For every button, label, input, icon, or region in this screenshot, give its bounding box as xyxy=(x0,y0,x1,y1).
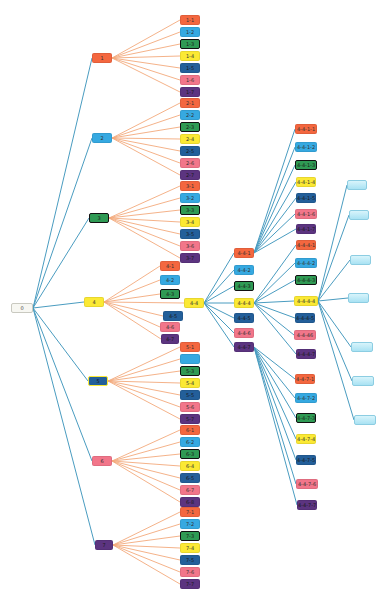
tree-node-4-4-7-6[interactable]: 4-4-7-6 xyxy=(296,479,318,489)
tree-node-4-4-7-7[interactable]: 4-4-7-7 xyxy=(297,500,317,510)
tree-node-2-6[interactable]: 2-6 xyxy=(180,158,200,168)
tree-node-4-4-7-4[interactable]: 4-4-7-4 xyxy=(296,434,316,444)
tree-node-4-4-4-3[interactable]: 4-4-4-3 xyxy=(295,275,317,285)
edge-4-4-4-to-4-4-4-4 xyxy=(254,301,294,303)
tree-node-4-4-4-2[interactable]: 4-4-4-2 xyxy=(295,258,317,268)
tree-node-3-7[interactable]: 3-7 xyxy=(180,253,200,263)
tree-node-1-5[interactable]: 1-5 xyxy=(180,63,200,73)
tree-node-7-6[interactable]: 7-6 xyxy=(180,567,200,577)
tree-node-4-4-5[interactable]: 4-4-5 xyxy=(234,313,254,323)
tree-node-4-4-6[interactable]: 4-4-6 xyxy=(234,328,254,338)
tree-node-2-2[interactable]: 2-2 xyxy=(180,110,200,120)
tree-node-6-8[interactable]: 6-8 xyxy=(180,497,200,507)
tree-node-2[interactable]: 2 xyxy=(92,133,112,143)
tree-node-6[interactable]: 6 xyxy=(92,456,112,466)
tree-node-4-4-4-4-5[interactable] xyxy=(351,342,373,352)
tree-node-4-3[interactable]: 4-3 xyxy=(160,289,180,299)
tree-node-1-1[interactable]: 1-1 xyxy=(180,15,200,25)
tree-node-4-4-4-4-3[interactable] xyxy=(350,255,371,265)
tree-node-7-4[interactable]: 7-4 xyxy=(180,543,200,553)
tree-node-7-2[interactable]: 7-2 xyxy=(180,519,200,529)
tree-node-1-3[interactable]: 1-3 xyxy=(180,39,200,49)
tree-node-6-1[interactable]: 6-1 xyxy=(180,425,200,435)
tree-node-1-4[interactable]: 1-4 xyxy=(180,51,200,61)
tree-node-5-1[interactable]: 5-1 xyxy=(180,342,200,352)
tree-node-1-6[interactable]: 1-6 xyxy=(180,75,200,85)
tree-node-4-2[interactable]: 4-2 xyxy=(160,275,180,285)
tree-node-3[interactable]: 3 xyxy=(89,213,109,223)
tree-node-4-4-1-3[interactable]: 4-4-1-3 xyxy=(295,160,317,170)
tree-node-4-4-7-1[interactable]: 4-4-7-1 xyxy=(295,374,315,384)
tree-node-4-4-4-4-4[interactable] xyxy=(348,293,369,303)
tree-node-2-7[interactable]: 2-7 xyxy=(180,170,200,180)
tree-node-4-5[interactable]: 4-5 xyxy=(163,311,183,321)
tree-node-3-4[interactable]: 3-4 xyxy=(180,217,200,227)
tree-node-6-3[interactable]: 6-3 xyxy=(180,449,200,459)
tree-node-4-4-4-6[interactable]: 4-4-46 xyxy=(294,330,316,340)
tree-node-4-4-4-5[interactable]: 4-4-4-5 xyxy=(295,313,315,323)
tree-node-4-6[interactable]: 4-6 xyxy=(160,322,180,332)
tree-node-2-1[interactable]: 2-1 xyxy=(180,98,200,108)
tree-node-4-4-7-5[interactable]: 4-4-7-5 xyxy=(296,455,316,465)
tree-node-7-7[interactable]: 7-7 xyxy=(180,579,200,589)
tree-node-5[interactable]: 5 xyxy=(88,376,108,386)
tree-node-4-4-1-2[interactable]: 4-4-1-2 xyxy=(295,142,317,152)
tree-node-6-4[interactable]: 6-4 xyxy=(180,461,200,471)
edge-3-to-3-2 xyxy=(109,198,180,218)
tree-node-2-4[interactable]: 2-4 xyxy=(180,134,200,144)
tree-node-4-4-1-4[interactable]: 4-4-1-4 xyxy=(296,177,316,187)
tree-node-4-4-7[interactable]: 4-4-7 xyxy=(234,342,254,352)
tree-node-1-7[interactable]: 1-7 xyxy=(180,87,200,97)
tree-node-0[interactable]: 0 xyxy=(11,303,33,313)
tree-node-5-7[interactable]: 5-7 xyxy=(180,414,200,424)
tree-node-3-3[interactable]: 3-3 xyxy=(180,205,200,215)
tree-node-7[interactable]: 7 xyxy=(95,540,113,550)
edge-4-4-1-to-4-4-1-3 xyxy=(254,165,295,253)
tree-node-4-4-7-3[interactable]: 4-4-7-3 xyxy=(296,413,316,423)
tree-node-5-3[interactable]: 5-3 xyxy=(180,366,200,376)
tree-node-4-4-1-7[interactable]: 4-4-1-7 xyxy=(296,224,316,234)
tree-node-6-7[interactable]: 6-7 xyxy=(180,485,200,495)
tree-node-4-4-4[interactable]: 4-4-4 xyxy=(234,298,254,308)
tree-node-6-2[interactable]: 6-2 xyxy=(180,437,200,447)
tree-node-3-6[interactable]: 3-6 xyxy=(180,241,200,251)
edge-5-to-5-7 xyxy=(108,381,180,419)
tree-node-5-6[interactable]: 5-6 xyxy=(180,402,200,412)
tree-node-4-4-4-4-6[interactable] xyxy=(352,376,374,386)
tree-node-4-4-4-4-2[interactable] xyxy=(349,210,369,220)
tree-node-4-4-4-1[interactable]: 4-4-4-1 xyxy=(296,240,316,250)
tree-node-3-2[interactable]: 3-2 xyxy=(180,193,200,203)
tree-node-1-2[interactable]: 1-2 xyxy=(180,27,200,37)
tree-node-4-1[interactable]: 4-1 xyxy=(160,261,180,271)
edge-4-4-to-4-4-1 xyxy=(204,253,234,303)
tree-node-4-4-4-7[interactable]: 4-4-4-7 xyxy=(296,349,316,359)
tree-node-1[interactable]: 1 xyxy=(92,53,112,63)
edge-2-to-2-6 xyxy=(112,138,180,163)
tree-node-4-4-1[interactable]: 4-4-1 xyxy=(234,248,254,258)
tree-node-4-4-7-2[interactable]: 4-4-7-2 xyxy=(295,393,317,403)
tree-node-3-5[interactable]: 3-5 xyxy=(180,229,200,239)
edge-2-to-2-4 xyxy=(112,138,180,139)
tree-node-5-2[interactable] xyxy=(180,354,200,364)
tree-node-7-1[interactable]: 7-1 xyxy=(180,507,200,517)
tree-node-4-7[interactable]: 4-7 xyxy=(161,334,179,344)
tree-node-6-5[interactable]: 6-5 xyxy=(180,473,200,483)
tree-node-5-5[interactable]: 5-5 xyxy=(180,390,200,400)
edge-4-to-4-6 xyxy=(104,302,160,327)
tree-node-4-4-4-4-1[interactable] xyxy=(347,180,367,190)
tree-node-4-4[interactable]: 4-4 xyxy=(184,298,204,308)
tree-node-4-4-4-4-7[interactable] xyxy=(354,415,376,425)
tree-node-4-4-2[interactable]: 4-4-2 xyxy=(234,265,254,275)
tree-node-4-4-1-1[interactable]: 4-4-1-1 xyxy=(295,124,317,134)
tree-node-4[interactable]: 4 xyxy=(84,297,104,307)
tree-node-3-1[interactable]: 3-1 xyxy=(180,181,200,191)
tree-node-4-4-1-5[interactable]: 4-4-1-5 xyxy=(296,193,316,203)
tree-node-4-4-4-4[interactable]: 4-4-4-4 xyxy=(294,296,318,306)
tree-node-4-4-3[interactable]: 4-4-3 xyxy=(234,281,254,291)
tree-node-7-3[interactable]: 7-3 xyxy=(180,531,200,541)
tree-node-2-3[interactable]: 2-3 xyxy=(180,122,200,132)
tree-node-2-5[interactable]: 2-5 xyxy=(180,146,200,156)
tree-node-4-4-1-6[interactable]: 4-4-1-6 xyxy=(295,209,317,219)
tree-node-7-5[interactable]: 7-5 xyxy=(180,555,200,565)
tree-node-5-4[interactable]: 5-4 xyxy=(180,378,200,388)
